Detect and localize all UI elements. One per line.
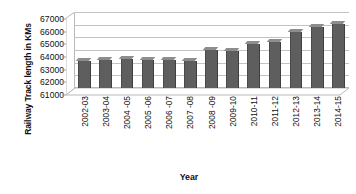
bar-top-face: [309, 24, 324, 27]
y-axis-tick-label: 66000: [40, 27, 64, 37]
y-axis-tick-label: 67000: [40, 14, 64, 24]
bar: [311, 27, 324, 88]
x-axis-title: Year: [0, 172, 356, 182]
bar-column: [142, 12, 155, 88]
y-axis-tick-label: 63000: [40, 65, 64, 75]
x-axis-tick-label: 2005 -06: [143, 96, 153, 156]
x-axis-tick-label: 2003-04: [101, 96, 111, 156]
bar: [290, 32, 303, 88]
bar-column: [290, 12, 303, 88]
bar: [99, 60, 112, 88]
bar-top-face: [76, 58, 91, 61]
bar: [163, 60, 176, 88]
x-axis-tick-label: 2004 -05: [122, 96, 132, 156]
bar-column: [184, 12, 197, 88]
bar: [121, 59, 134, 89]
bar: [269, 42, 282, 88]
bar-top-face: [245, 41, 260, 44]
bar: [226, 51, 239, 88]
x-axis-tick-labels: 2002-032003-042004 -052005 -062006 -0720…: [66, 96, 349, 162]
bar-top-face: [182, 58, 197, 61]
x-axis-tick-label: 2014-15: [333, 96, 343, 156]
x-axis-tick-label: 2007 -08: [185, 96, 195, 156]
y-axis-tick-label: 62000: [40, 77, 64, 87]
bar-column: [121, 12, 134, 88]
bar-series: [74, 12, 349, 88]
x-axis-tick-label: 2006 -07: [164, 96, 174, 156]
bar-top-face: [224, 48, 239, 51]
bar-column: [163, 12, 176, 88]
bar-column: [269, 12, 282, 88]
bar: [247, 44, 260, 88]
x-axis-tick-label: 2010-11: [249, 96, 259, 156]
bar-column: [311, 12, 324, 88]
bar-top-face: [266, 39, 281, 42]
bar: [205, 50, 218, 88]
bar: [332, 24, 345, 88]
x-axis-tick-label: 2008 -09: [207, 96, 217, 156]
railway-track-length-bar-chart: Railway Track length in KMs 610006200063…: [0, 0, 356, 194]
bar-top-face: [139, 57, 154, 60]
bar-top-face: [97, 57, 112, 60]
y-axis-tick-label: 65000: [40, 39, 64, 49]
bar: [142, 60, 155, 88]
bar-column: [332, 12, 345, 88]
x-axis-tick-label: 2009-10: [228, 96, 238, 156]
y-axis-tick-labels: 61000620006300064000650006600067000: [22, 0, 66, 194]
bar: [184, 61, 197, 88]
bar-column: [226, 12, 239, 88]
x-axis-tick-label: 2002-03: [80, 96, 90, 156]
bar-top-face: [118, 56, 133, 59]
bar-top-face: [203, 47, 218, 50]
bar-top-face: [288, 29, 303, 32]
y-axis-tick-label: 61000: [40, 90, 64, 100]
bar-top-face: [330, 21, 345, 24]
bar: [78, 61, 91, 88]
bar-top-face: [161, 57, 176, 60]
x-axis-tick-label: 2011-12: [270, 96, 280, 156]
bar-column: [247, 12, 260, 88]
bar-column: [78, 12, 91, 88]
x-axis-tick-label: 2013-14: [312, 96, 322, 156]
bar-column: [99, 12, 112, 88]
x-axis-tick-label: 2012-13: [291, 96, 301, 156]
bar-column: [205, 12, 218, 88]
y-axis-tick-label: 64000: [40, 52, 64, 62]
plot-area: [66, 12, 349, 95]
